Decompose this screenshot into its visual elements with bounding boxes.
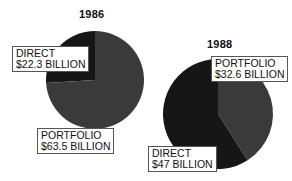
label-direct-1986-amount: $22.3 BILLION — [16, 59, 85, 70]
label-portfolio-1986-amount: $63.5 BILLION — [41, 141, 110, 152]
label-direct-1988: DIRECT $47 BILLION — [148, 146, 217, 172]
label-direct-1988-amount: $47 BILLION — [152, 159, 213, 170]
label-direct-1986: DIRECT $22.3 BILLION — [12, 46, 89, 72]
chart-title-1988: 1988 — [207, 38, 232, 50]
label-portfolio-1986: PORTFOLIO $63.5 BILLION — [37, 128, 114, 154]
label-portfolio-1988: PORTFOLIO $32.6 BILLION — [211, 56, 288, 82]
chart-title-1986: 1986 — [79, 8, 104, 20]
label-portfolio-1988-amount: $32.6 BILLION — [215, 69, 284, 80]
